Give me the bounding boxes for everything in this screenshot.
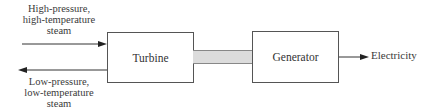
output-steam-arrow xyxy=(18,67,107,73)
turbine-box: Turbine xyxy=(107,32,194,83)
shaft-connector xyxy=(193,50,253,64)
electricity-label: Electricity xyxy=(371,50,417,61)
generator-box: Generator xyxy=(252,31,339,83)
input-steam-arrow xyxy=(22,41,107,47)
turbine-label: Turbine xyxy=(133,52,169,64)
electricity-arrow xyxy=(338,54,369,60)
generator-label: Generator xyxy=(273,51,319,63)
